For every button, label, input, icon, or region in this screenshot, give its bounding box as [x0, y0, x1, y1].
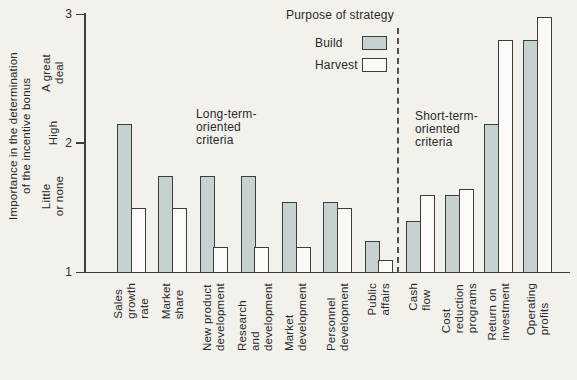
- harvest-bar: [337, 208, 352, 273]
- incentive-bonus-bar-chart: Importance in the determination of the i…: [0, 0, 577, 380]
- harvest-bar: [537, 17, 552, 273]
- harvest-bar: [213, 247, 228, 273]
- bar-pair-personnel-development: Personnel development: [323, 202, 352, 273]
- bar-pair-cost-reduction-programs: Cost reduction programs: [445, 189, 474, 273]
- category-label: Operating profits: [525, 283, 551, 335]
- harvest-bar: [459, 189, 474, 273]
- bar-pair-cash-flow: Cash flow: [406, 195, 435, 273]
- category-label: Public affairs: [366, 283, 392, 316]
- category-label: Market share: [160, 283, 186, 319]
- category-label: Cash flow: [407, 283, 433, 311]
- category-label: Personnel development: [325, 283, 351, 351]
- bar-group-short-term: Cash flowCost reduction programsReturn o…: [406, 17, 552, 273]
- category-label: New product development: [201, 283, 227, 351]
- harvest-bar: [131, 208, 146, 273]
- harvest-bar: [172, 208, 187, 273]
- harvest-bar: [296, 247, 311, 273]
- bar-pair-market-share: Market share: [158, 176, 187, 273]
- bar-pair-market-development: Market development: [282, 202, 311, 273]
- bar-pair-return-on-investment: Return on investment: [484, 40, 513, 273]
- harvest-bar: [498, 40, 513, 273]
- harvest-bar: [254, 247, 269, 273]
- category-label: Return on investment: [486, 283, 512, 341]
- plot-area: Sales growth rateMarket shareNew product…: [0, 0, 577, 380]
- category-label: Cost reduction programs: [440, 283, 479, 333]
- bar-group-long-term: Sales growth rateMarket shareNew product…: [117, 124, 393, 273]
- category-label: Sales growth rate: [112, 283, 151, 319]
- harvest-bar: [420, 195, 435, 273]
- bar-pair-new-product-development: New product development: [200, 176, 229, 273]
- category-label: Research and development: [236, 283, 275, 351]
- bar-pair-research-and-development: Research and development: [241, 176, 270, 273]
- bar-pair-public-affairs: Public affairs: [365, 241, 394, 273]
- category-label: Market development: [283, 283, 309, 351]
- harvest-bar: [378, 260, 393, 273]
- bar-pair-sales-growth-rate: Sales growth rate: [117, 124, 146, 273]
- bar-pair-operating-profits: Operating profits: [523, 17, 552, 273]
